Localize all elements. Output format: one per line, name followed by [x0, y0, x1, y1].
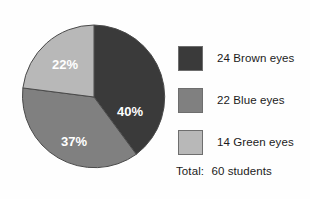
legend-label-green-eyes: 14 Green eyes: [217, 136, 294, 148]
legend-item-green-eyes[interactable]: 14 Green eyes: [178, 124, 308, 160]
total-label: Total:: [176, 165, 204, 177]
pie-label-green-eyes: 22%: [52, 57, 78, 72]
legend-swatch-brown-eyes: [178, 46, 203, 71]
legend-label-blue-eyes: 22 Blue eyes: [217, 94, 285, 106]
legend-label-brown-eyes: 24 Brown eyes: [217, 52, 294, 64]
total-line: Total: 60 students: [176, 165, 272, 177]
pie-label-brown-eyes: 40%: [117, 104, 143, 119]
legend: 24 Brown eyes 22 Blue eyes 14 Green eyes: [178, 40, 308, 166]
pie-chart-svg: 40% 37% 22%: [20, 23, 168, 171]
legend-swatch-blue-eyes: [178, 88, 203, 113]
pie-chart: 40% 37% 22%: [20, 23, 168, 171]
legend-swatch-green-eyes: [178, 130, 203, 155]
legend-item-blue-eyes[interactable]: 22 Blue eyes: [178, 82, 308, 118]
pie-label-blue-eyes: 37%: [61, 134, 87, 149]
total-value: 60 students: [211, 165, 272, 177]
legend-item-brown-eyes[interactable]: 24 Brown eyes: [178, 40, 308, 76]
pie-chart-figure: 40% 37% 22% 24 Brown eyes 22 Blue eyes 1…: [0, 0, 310, 199]
